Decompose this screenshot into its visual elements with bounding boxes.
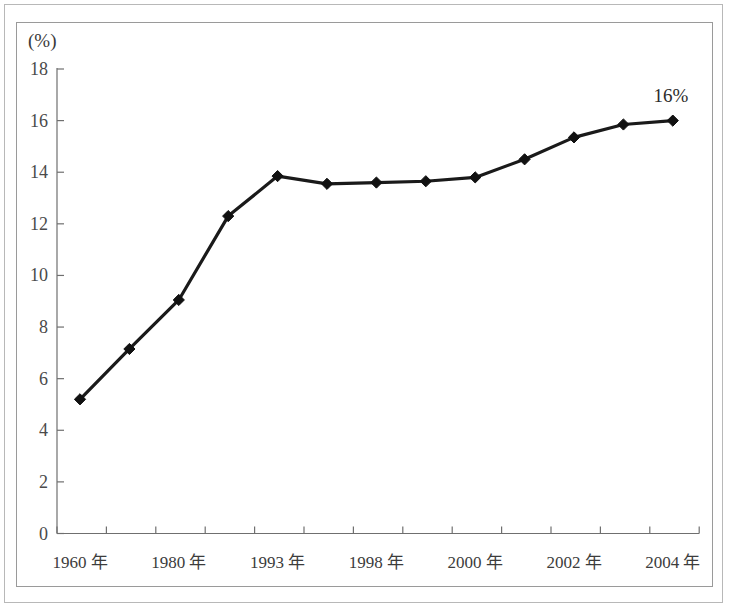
data-point-marker[interactable] xyxy=(667,115,678,126)
chart-page: (%) 024681012141618 1960 年1980 年1993 年19… xyxy=(0,0,729,609)
y-axis-tick-label: 18 xyxy=(14,59,48,80)
x-axis-tick-label: 1993 年 xyxy=(250,548,305,573)
data-point-marker[interactable] xyxy=(470,172,481,183)
line-chart xyxy=(0,0,729,609)
y-axis-tick-label: 12 xyxy=(14,213,48,234)
data-point-marker[interactable] xyxy=(371,177,382,188)
y-axis-tick-label: 0 xyxy=(14,523,48,544)
x-axis-tick-label: 1998 年 xyxy=(349,548,404,573)
x-axis-tick-label: 2000 年 xyxy=(448,548,503,573)
value-annotation-label: 16% xyxy=(653,85,688,107)
x-axis-tick-label: 1980 年 xyxy=(151,548,206,573)
y-axis-tick-label: 14 xyxy=(14,162,48,183)
data-point-marker[interactable] xyxy=(321,178,332,189)
series-line xyxy=(80,121,673,400)
y-axis-tick-label: 6 xyxy=(14,368,48,389)
data-point-marker[interactable] xyxy=(568,132,579,143)
data-point-marker[interactable] xyxy=(519,154,530,165)
x-axis-tick-label: 2004 年 xyxy=(645,548,700,573)
y-axis-tick-label: 16 xyxy=(14,110,48,131)
data-point-marker[interactable] xyxy=(618,119,629,130)
y-axis-tick-label: 2 xyxy=(14,471,48,492)
data-point-marker[interactable] xyxy=(420,176,431,187)
x-axis-tick-label: 2002 年 xyxy=(546,548,601,573)
x-axis-tick-label: 1960 年 xyxy=(52,548,107,573)
y-axis-tick-label: 10 xyxy=(14,265,48,286)
chart-svg xyxy=(0,0,729,609)
y-axis-tick-label: 4 xyxy=(14,420,48,441)
y-axis-tick-label: 8 xyxy=(14,317,48,338)
